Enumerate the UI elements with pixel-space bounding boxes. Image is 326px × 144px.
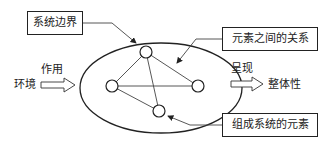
element-node-right bbox=[192, 80, 204, 92]
relations-leader bbox=[177, 39, 222, 63]
edge-top-bottom bbox=[146, 52, 159, 111]
elements-leader bbox=[168, 116, 222, 125]
system-boundary-callout: 系统边界 bbox=[27, 11, 83, 35]
system-boundary-ellipse bbox=[80, 43, 242, 133]
relations-callout: 元素之间的关系 bbox=[222, 27, 318, 51]
element-nodes bbox=[106, 46, 204, 117]
input-arrow-icon bbox=[41, 78, 75, 92]
input-action-label: 作用 bbox=[41, 64, 63, 76]
environment-label: 环境 bbox=[14, 79, 36, 91]
edge-left-bottom bbox=[112, 86, 159, 111]
element-relations bbox=[112, 52, 198, 111]
elements-callout: 组成系统的元素 bbox=[222, 113, 318, 137]
output-action-label: 呈现 bbox=[231, 63, 253, 75]
system-boundary-leader bbox=[82, 23, 136, 43]
element-node-left bbox=[106, 80, 118, 92]
element-node-top bbox=[140, 46, 152, 58]
element-node-bottom bbox=[153, 105, 165, 117]
wholeness-label: 整体性 bbox=[268, 79, 301, 91]
output-arrow-icon bbox=[231, 77, 263, 91]
edge-top-left bbox=[112, 52, 146, 86]
edge-top-right bbox=[146, 52, 198, 86]
